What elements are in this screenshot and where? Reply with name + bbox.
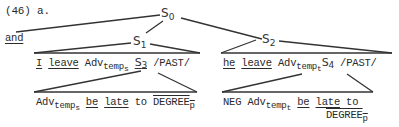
degree-base: DEGREE: [326, 109, 363, 121]
word-to: to: [346, 96, 358, 108]
node-s2-label: S: [262, 32, 270, 46]
adv-sub: temp: [296, 62, 317, 72]
adv-sub: temp: [54, 101, 75, 111]
conjunction-and: and: [5, 33, 23, 44]
node-s0-index: 0: [169, 12, 175, 22]
word-late: late: [316, 96, 340, 108]
node-s1-index: 1: [141, 40, 147, 50]
adv-base: Adv: [36, 96, 54, 108]
branch-s2-left: [221, 40, 256, 53]
node-s4-index: 4: [328, 60, 334, 70]
word-leave: leave: [241, 57, 272, 69]
adv-base: Adv: [85, 57, 103, 69]
adv-temp-t: Advtempt: [247, 96, 291, 108]
adv-subsub: t: [287, 103, 292, 112]
branch-s3-left: [34, 71, 141, 92]
branch-s4-right: [347, 74, 373, 92]
branch-s1-right: [150, 44, 200, 53]
s4-terminal-string: NEG Advtempt be late to: [223, 97, 358, 108]
adv-base: Adv: [278, 57, 296, 69]
word-late: late: [104, 96, 128, 108]
degree-p: DEGREEp: [326, 109, 368, 121]
word-i: I: [36, 57, 42, 69]
word-he: he: [223, 57, 235, 69]
node-s3: S3: [135, 56, 147, 69]
branch-s2-right: [279, 41, 392, 53]
adv-temp-s: Advtemps: [36, 96, 80, 108]
word-be: be: [86, 96, 98, 108]
adv-temp-s: Advtemps: [85, 57, 129, 69]
tense-past: /PAST/: [340, 57, 377, 69]
branch-s3-right: [158, 73, 197, 92]
degree-base: DEGREE: [153, 96, 190, 108]
node-s4: S4: [322, 56, 334, 69]
branch-s0-s2: [181, 18, 262, 39]
node-s3-index: 3: [141, 60, 147, 70]
node-s0: S0: [161, 7, 174, 22]
adv-base: Adv: [247, 96, 265, 108]
adv-subsub: t: [317, 64, 322, 73]
degree-p: DEGREEp: [153, 96, 195, 108]
degree-sub: p: [363, 114, 368, 124]
s1-terminal-string: I leave Advtemps S3 /PAST/: [36, 57, 190, 69]
degree-sub: p: [190, 101, 195, 111]
adv-subsub: s: [75, 103, 80, 112]
adv-sub: temp: [266, 101, 287, 111]
branch-s1-left: [34, 43, 131, 53]
node-s2-index: 2: [270, 38, 276, 48]
s4-degree-line: DEGREEp: [326, 110, 368, 121]
branch-s0-s1: [146, 21, 163, 33]
adv-subsub: s: [124, 64, 129, 73]
adv-temp-t: Advtempt: [278, 57, 322, 69]
neg: NEG: [223, 96, 241, 108]
word-leave: leave: [48, 57, 79, 69]
example-label: (46) a.: [5, 6, 50, 17]
branch-s0-and: [16, 15, 160, 32]
tense-past: /PAST/: [153, 57, 190, 69]
node-s1-label: S: [133, 34, 141, 48]
branch-s4-left: [222, 74, 302, 92]
node-s1: S1: [133, 35, 146, 50]
node-s2: S2: [262, 33, 275, 48]
adv-sub: temp: [103, 62, 124, 72]
s3-terminal-string: Advtemps be late to DEGREEp: [36, 97, 195, 108]
node-s0-label: S: [161, 6, 169, 20]
word-be: be: [297, 96, 309, 108]
s2-terminal-string: he leave AdvtemptS4 /PAST/: [223, 57, 377, 69]
word-to: to: [135, 96, 147, 108]
